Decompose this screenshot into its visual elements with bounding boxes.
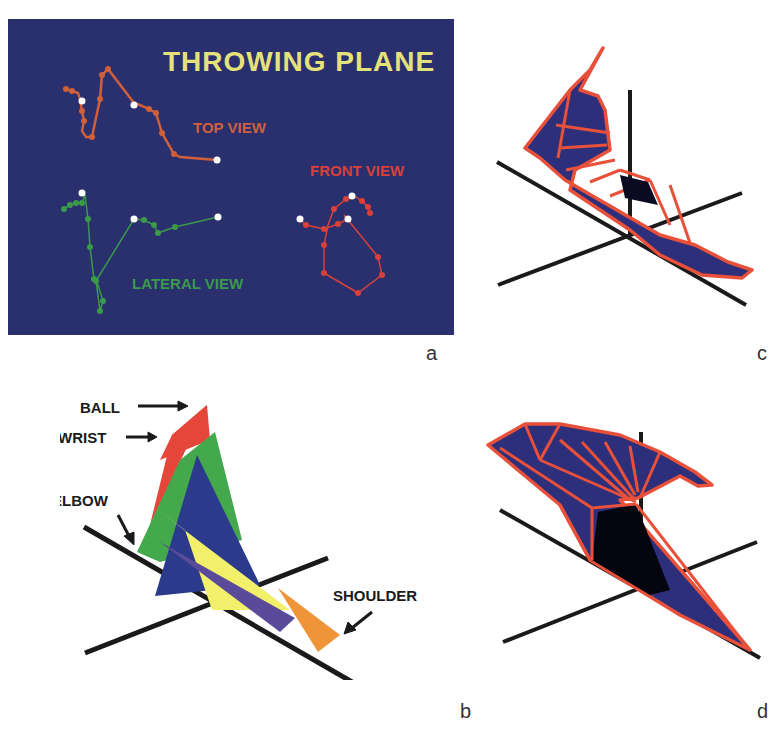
elbow-label: ELBOW bbox=[60, 492, 109, 509]
lateral-view-trajectory bbox=[64, 195, 218, 311]
lateral-view-label: LATERAL VIEW bbox=[132, 275, 244, 292]
panel-b-joint-planes: BALL WRIST ELBOW SHOULDER bbox=[60, 360, 470, 680]
panel-d-letter: d bbox=[757, 700, 768, 723]
plane-shadow-facet bbox=[620, 175, 658, 205]
panel-c-letter: c bbox=[757, 342, 767, 365]
ball-label: BALL bbox=[80, 399, 120, 416]
shoulder-label: SHOULDER bbox=[333, 587, 417, 604]
top-view-points bbox=[63, 66, 177, 157]
lateral-view-markers bbox=[79, 190, 222, 223]
panel-c-plane bbox=[470, 30, 781, 330]
panel-a-title: THROWING PLANE bbox=[163, 46, 435, 77]
top-view-label: TOP VIEW bbox=[193, 119, 267, 136]
lateral-view-points bbox=[61, 200, 178, 314]
axis-z bbox=[497, 162, 746, 305]
front-view-label: FRONT VIEW bbox=[310, 162, 405, 179]
panel-d-plane bbox=[470, 380, 781, 680]
front-view-points bbox=[303, 196, 385, 296]
panel-a-throwing-plane: THROWING PLANE TOP VIEW LATERAL VIEW FRO… bbox=[8, 19, 454, 335]
panel-b-letter: b bbox=[460, 700, 471, 723]
top-view-trajectory bbox=[66, 69, 217, 160]
wrist-label: WRIST bbox=[60, 429, 106, 446]
